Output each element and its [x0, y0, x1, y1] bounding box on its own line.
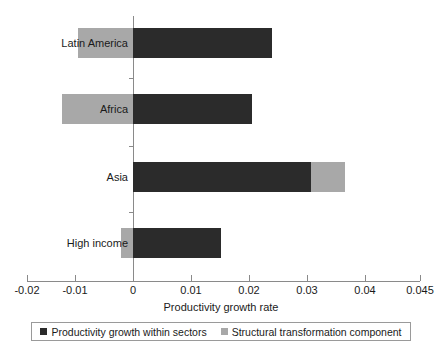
x-axis-tick-label: 0.045: [392, 284, 442, 296]
axis-minor-tick: [129, 146, 134, 147]
axis-minor-tick: [129, 78, 134, 79]
bar-segment-structural: [311, 162, 345, 192]
x-axis-tick: [249, 275, 250, 281]
chart-legend: Productivity growth within sectors Struc…: [31, 322, 411, 341]
legend-item-structural: Structural transformation component: [221, 326, 402, 338]
category-label: High income: [23, 228, 128, 258]
x-axis-line: [27, 281, 420, 282]
x-axis-tick-label: 0.03: [279, 284, 335, 296]
bar-segment-within-sectors: [133, 94, 252, 124]
legend-swatch-icon: [221, 328, 228, 335]
x-axis-tick-label: 0: [105, 284, 161, 296]
x-axis-title: Productivity growth rate: [0, 301, 442, 313]
category-label: Asia: [23, 162, 128, 192]
x-axis-tick: [420, 275, 421, 281]
legend-label: Productivity growth within sectors: [51, 326, 206, 338]
x-axis-tick: [191, 275, 192, 281]
x-axis-tick: [75, 275, 76, 281]
x-axis-tick: [307, 275, 308, 281]
category-label: Africa: [23, 94, 128, 124]
x-axis-tick-label: 0.01: [163, 284, 219, 296]
bar-segment-within-sectors: [133, 162, 311, 192]
plot-area: Latin America Africa Asia High income: [0, 0, 442, 282]
axis-minor-tick: [129, 212, 134, 213]
legend-label: Structural transformation component: [232, 326, 402, 338]
x-axis-tick-label: -0.01: [47, 284, 103, 296]
x-axis-tick-label: 0.02: [221, 284, 277, 296]
bar-segment-within-sectors: [133, 228, 221, 258]
x-axis-tick: [365, 275, 366, 281]
category-label: Latin America: [23, 28, 128, 58]
bar-segment-within-sectors: [133, 28, 272, 58]
x-axis-tick-label: 0.04: [337, 284, 393, 296]
legend-item-within-sectors: Productivity growth within sectors: [40, 326, 206, 338]
x-axis-tick: [27, 275, 28, 281]
legend-swatch-icon: [40, 328, 47, 335]
x-axis-tick: [133, 275, 134, 281]
bar-chart: Latin America Africa Asia High income: [0, 0, 442, 351]
